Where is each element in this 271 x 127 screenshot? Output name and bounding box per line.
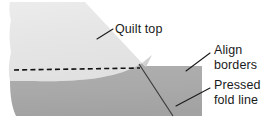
label-align-borders-line1: Align [214, 43, 242, 57]
label-pressed-fold-line2: fold line [214, 93, 258, 107]
quilt-diagram-svg: Quilt border alignment diagram [0, 0, 271, 127]
label-pressed-fold-line1: Pressed [214, 78, 261, 92]
label-align-borders-line2: borders [214, 58, 257, 72]
label-quilt-top: Quilt top [115, 22, 162, 36]
quilt-diagram-container: Quilt border alignment diagram [0, 0, 271, 127]
